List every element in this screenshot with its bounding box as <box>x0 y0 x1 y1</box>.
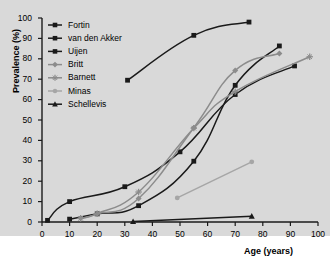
series-marker-square <box>53 49 58 54</box>
y-tick-label: 20 <box>12 176 32 186</box>
series-line <box>128 22 249 80</box>
series-marker-square <box>277 44 282 49</box>
legend-item-minas[interactable]: Minas <box>68 86 91 96</box>
legend-swatch-van-den-akker[interactable] <box>48 36 62 41</box>
y-tick-label: 100 <box>12 13 32 23</box>
legend-item-van-den-akker[interactable]: van den Akker <box>68 33 122 43</box>
legend-item-britt[interactable]: Britt <box>68 59 83 69</box>
series-line <box>81 53 280 218</box>
legend-item-barnett[interactable]: Barnett <box>68 72 95 82</box>
series-line <box>70 46 280 219</box>
legend-swatch-fortin[interactable] <box>48 23 62 28</box>
series-marker-star <box>94 210 100 216</box>
series-marker-diamond <box>276 50 282 56</box>
x-tick-label: 30 <box>115 229 135 239</box>
series-line <box>133 216 252 221</box>
series-marker-square <box>67 217 72 222</box>
x-tick-label: 20 <box>87 229 107 239</box>
x-tick-label: 40 <box>142 229 162 239</box>
series-marker-square <box>125 78 130 83</box>
series-marker-circle <box>249 159 254 164</box>
legend-item-uijen[interactable]: Uijen <box>68 46 87 56</box>
series-marker-square <box>191 159 196 164</box>
legend-swatch-schellevis[interactable] <box>48 101 62 106</box>
legend-swatch-minas[interactable] <box>48 89 62 94</box>
series-marker-star <box>307 54 313 60</box>
series-marker-circle <box>53 89 58 94</box>
series-marker-star <box>232 88 238 94</box>
series-marker-diamond <box>52 62 58 68</box>
y-tick-label: 0 <box>12 217 32 227</box>
series-marker-square <box>45 218 50 223</box>
series-marker-square <box>122 184 127 189</box>
y-tick-label: 40 <box>12 135 32 145</box>
series-marker-star <box>52 75 58 81</box>
legend-swatch-uijen[interactable] <box>48 49 62 54</box>
y-tick-label: 50 <box>12 115 32 125</box>
y-tick-label: 80 <box>12 53 32 63</box>
series-britt <box>78 50 283 221</box>
series-minas <box>175 159 254 200</box>
y-tick-label: 10 <box>12 196 32 206</box>
y-tick-label: 70 <box>12 74 32 84</box>
series-marker-square <box>136 203 141 208</box>
x-tick-label: 70 <box>225 229 245 239</box>
legend-swatch-britt[interactable] <box>48 62 62 68</box>
y-tick-label: 30 <box>12 155 32 165</box>
x-tick-label: 100 <box>308 229 328 239</box>
series-marker-star <box>191 125 197 131</box>
series-marker-square <box>67 199 72 204</box>
series-marker-star <box>77 215 83 221</box>
x-tick-label: 80 <box>253 229 273 239</box>
series-marker-square <box>247 20 252 25</box>
y-tick-label: 60 <box>12 94 32 104</box>
series-marker-square <box>53 36 58 41</box>
y-tick-label: 90 <box>12 33 32 43</box>
x-tick-label: 10 <box>60 229 80 239</box>
series-marker-circle <box>175 196 180 201</box>
series-marker-square <box>191 33 196 38</box>
legend-item-schellevis[interactable]: Schellevis <box>68 99 106 109</box>
chart-figure: Prevalence (%) Age (years) 0102030405060… <box>0 0 330 269</box>
x-tick-label: 50 <box>170 229 190 239</box>
x-tick-label: 90 <box>280 229 300 239</box>
series-marker-star <box>135 189 141 195</box>
series-marker-square <box>53 23 58 28</box>
x-tick-label: 0 <box>32 229 52 239</box>
legend-swatch-barnett[interactable] <box>48 75 62 81</box>
legend-item-fortin[interactable]: Fortin <box>68 20 90 30</box>
x-tick-label: 60 <box>198 229 218 239</box>
series-marker-square <box>233 83 238 88</box>
